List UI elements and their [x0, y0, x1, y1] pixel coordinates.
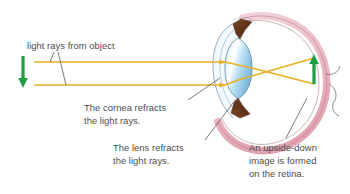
eyeball: [213, 16, 340, 151]
cornea-label: The cornea refracts the light rays.: [84, 101, 204, 127]
object-arrow: [18, 56, 28, 88]
iris-upper: [233, 19, 252, 39]
retina-label: An upside-down image is formed on the re…: [249, 141, 349, 181]
leader-cornea: [188, 78, 220, 100]
eye-diagram-figure: light rays from object The cornea refrac…: [0, 0, 350, 194]
leader-upper-ray: [50, 52, 54, 62]
object-arrow-head: [18, 78, 28, 88]
light-rays-label: light rays from object: [27, 39, 167, 52]
iris-lower: [231, 98, 250, 118]
optic-nerve: [329, 84, 339, 116]
leader-lower-ray: [58, 52, 66, 85]
light-rays: [34, 58, 314, 85]
lens-label: The lens refracts the light rays.: [113, 141, 233, 167]
